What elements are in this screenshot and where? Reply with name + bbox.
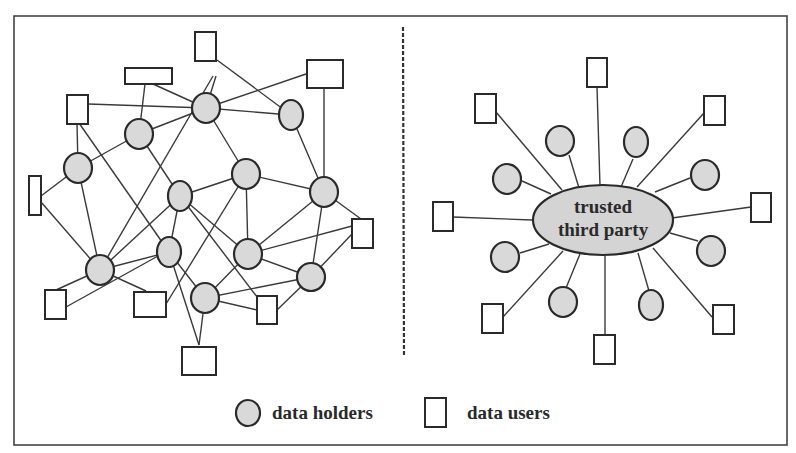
data-holder-node — [232, 159, 260, 189]
legend-users-label: data users — [467, 402, 550, 423]
data-holder-node — [691, 160, 719, 190]
data-holder-node — [297, 263, 325, 291]
data-holder-node — [546, 126, 574, 156]
data-holder-node — [168, 181, 192, 211]
data-holder-node — [639, 290, 663, 320]
data-holder-node — [493, 164, 521, 194]
data-user-node — [67, 95, 88, 124]
data-holder-node — [549, 287, 577, 317]
data-holder-node — [624, 127, 648, 157]
legend: data holders data users — [236, 398, 550, 427]
data-user-node — [307, 60, 343, 88]
data-user-node — [45, 290, 66, 319]
data-holder-node — [157, 237, 181, 267]
data-user-node — [482, 304, 503, 333]
data-holder-node — [279, 100, 303, 130]
decentralized-network — [29, 32, 373, 375]
ttp-label-line2: third party — [558, 219, 649, 240]
data-holders — [64, 93, 338, 313]
data-user-node — [433, 202, 453, 231]
trusted-third-party-network: trusted third party — [433, 58, 771, 364]
data-user-node — [704, 96, 725, 125]
data-holder-node — [191, 283, 219, 313]
data-user-node — [257, 296, 277, 324]
data-holder-node — [310, 177, 338, 207]
data-holder-node — [697, 236, 725, 266]
data-holder-node — [491, 242, 519, 272]
data-user-node — [713, 305, 734, 334]
data-user-node — [195, 32, 216, 61]
data-user-node — [134, 292, 166, 317]
legend-holders-label: data holders — [272, 402, 373, 423]
data-user-node — [475, 94, 496, 123]
data-user-node — [587, 58, 607, 87]
legend-holder-icon — [236, 400, 260, 426]
legend-user-icon — [425, 398, 446, 427]
trusted-third-party-node: trusted third party — [533, 185, 673, 255]
data-user-node — [751, 193, 771, 222]
diagram: trusted third party data holders data us… — [0, 0, 796, 453]
data-user-node — [29, 176, 41, 215]
panel-divider — [403, 27, 404, 356]
data-holder-node — [86, 255, 114, 285]
data-holder-node — [125, 119, 153, 149]
data-holder-node — [234, 239, 262, 269]
data-user-node — [352, 219, 373, 248]
data-holder-node — [64, 153, 92, 183]
data-holder-node — [192, 93, 220, 123]
data-user-node — [125, 68, 172, 84]
ttp-label-line1: trusted — [574, 196, 632, 217]
data-user-node — [182, 347, 216, 375]
data-user-node — [594, 335, 615, 364]
